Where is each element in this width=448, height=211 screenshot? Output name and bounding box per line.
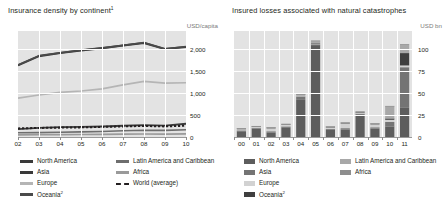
bar-segment — [341, 123, 350, 128]
left-chart-title-superscript: 1 — [111, 6, 114, 11]
bar-segment — [370, 124, 379, 127]
x-tick-mark — [382, 137, 383, 140]
left-legend-column-1: North AmericaAsiaEuropeOceania2 — [20, 156, 77, 200]
y-tick-label: 1,000 — [190, 89, 205, 96]
legend-item[interactable]: North America — [244, 156, 299, 167]
bar-segment — [400, 65, 409, 67]
x-tick-mark — [368, 137, 369, 140]
bar-segment — [355, 115, 364, 137]
gridline-vertical — [264, 31, 265, 137]
bar-segment — [237, 130, 246, 131]
legend-swatch-icon — [116, 171, 129, 174]
x-tick-label: 02 — [268, 140, 275, 147]
legend-swatch-icon — [244, 192, 255, 197]
right-legend-column-1: North AmericaAsiaEuropeOceania2 — [244, 156, 299, 200]
x-tick-mark — [353, 137, 354, 140]
figure-container: Insurance density by continent1 USD/capi… — [0, 0, 448, 211]
legend-item[interactable]: Latin America and Caribbean — [116, 156, 214, 167]
legend-item[interactable]: Oceania2 — [244, 189, 299, 200]
x-tick-label: 03 — [282, 140, 289, 147]
right-legend-column-2: Latin America and CaribbeanAfrica — [340, 156, 436, 178]
x-tick-label: 06 — [99, 140, 106, 147]
legend-item[interactable]: Europe — [244, 178, 299, 189]
y-tick-label: 0 — [418, 134, 421, 141]
bar-segment — [370, 123, 379, 124]
bar-segment — [385, 122, 394, 126]
y-tick-label: 100 — [418, 45, 428, 52]
legend-swatch-icon — [244, 170, 255, 175]
y-tick-label: 75 — [418, 67, 425, 74]
x-tick-label: 01 — [253, 140, 260, 147]
gridline-vertical — [165, 31, 166, 137]
bar-segment — [281, 126, 290, 127]
left-chart-title: Insurance density by continent1 — [8, 6, 114, 15]
y-tick-label: 0 — [190, 134, 193, 141]
x-tick-mark — [264, 137, 265, 140]
left-chart-unit-label: USD/capita — [187, 22, 218, 29]
legend-label: Africa — [355, 169, 371, 175]
bar-segment — [281, 127, 290, 137]
legend-label: North America — [37, 158, 77, 164]
legend-item[interactable]: North America — [20, 156, 77, 167]
gridline-vertical — [353, 31, 354, 137]
gridline-vertical — [81, 31, 82, 137]
bar-segment — [296, 94, 305, 95]
legend-label: Europe — [37, 180, 57, 186]
legend-item[interactable]: Asia — [244, 167, 299, 178]
x-tick-label: 02 — [15, 140, 22, 147]
x-tick-label: 08 — [357, 140, 364, 147]
legend-item[interactable]: World (average) — [116, 178, 214, 189]
x-tick-mark — [308, 137, 309, 140]
bar-segment — [296, 100, 305, 137]
x-tick-label: 04 — [297, 140, 304, 147]
legend-label: North America — [259, 158, 299, 164]
gridline-vertical — [338, 31, 339, 137]
bar-segment — [266, 131, 275, 132]
bar-segment — [296, 96, 305, 100]
gridline-vertical — [308, 31, 309, 137]
legend-item[interactable]: Africa — [340, 167, 436, 178]
x-tick-label: 10 — [183, 140, 190, 147]
bar-segment — [326, 129, 335, 130]
bar-segment — [355, 111, 364, 112]
bar-segment — [296, 95, 305, 96]
legend-item[interactable]: Asia — [20, 167, 77, 178]
gridline-vertical — [293, 31, 294, 137]
legend-item[interactable]: Oceania2 — [20, 189, 77, 200]
legend-item[interactable]: Latin America and Caribbean — [340, 156, 436, 167]
legend-label: World (average) — [133, 180, 178, 186]
legend-swatch-icon — [20, 193, 33, 196]
bar-segment — [281, 124, 290, 125]
bar-segment — [385, 126, 394, 137]
y-tick-label: 25 — [418, 111, 425, 118]
bar-segment — [266, 127, 275, 128]
bar-segment — [266, 128, 275, 131]
bar-segment — [355, 112, 364, 113]
x-tick-mark — [144, 137, 145, 140]
left-legend-column-2: Latin America and CaribbeanAfricaWorld (… — [116, 156, 214, 189]
x-tick-label: 10 — [386, 140, 393, 147]
bar-segment — [311, 41, 320, 42]
legend-item[interactable]: Africa — [116, 167, 214, 178]
x-tick-mark — [60, 137, 61, 140]
x-tick-mark — [397, 137, 398, 140]
left-chart-panel: Insurance density by continent1 USD/capi… — [0, 0, 224, 211]
bar-segment — [385, 106, 394, 107]
gridline-vertical — [382, 31, 383, 137]
legend-swatch-icon — [116, 183, 129, 185]
bar-segment — [252, 126, 261, 127]
legend-label: Asia — [259, 169, 271, 175]
x-tick-mark — [249, 137, 250, 140]
bar-segment — [237, 129, 246, 130]
gridline-vertical — [397, 31, 398, 137]
bar-segment — [400, 53, 409, 65]
legend-swatch-icon — [20, 182, 33, 185]
legend-swatch-icon — [340, 159, 351, 164]
gridline-vertical — [60, 31, 61, 137]
x-tick-mark — [18, 137, 19, 140]
legend-swatch-icon — [20, 160, 33, 163]
legend-item[interactable]: Europe — [20, 178, 77, 189]
bar-segment — [237, 128, 246, 129]
x-tick-label: 04 — [57, 140, 64, 147]
x-tick-label: 09 — [371, 140, 378, 147]
